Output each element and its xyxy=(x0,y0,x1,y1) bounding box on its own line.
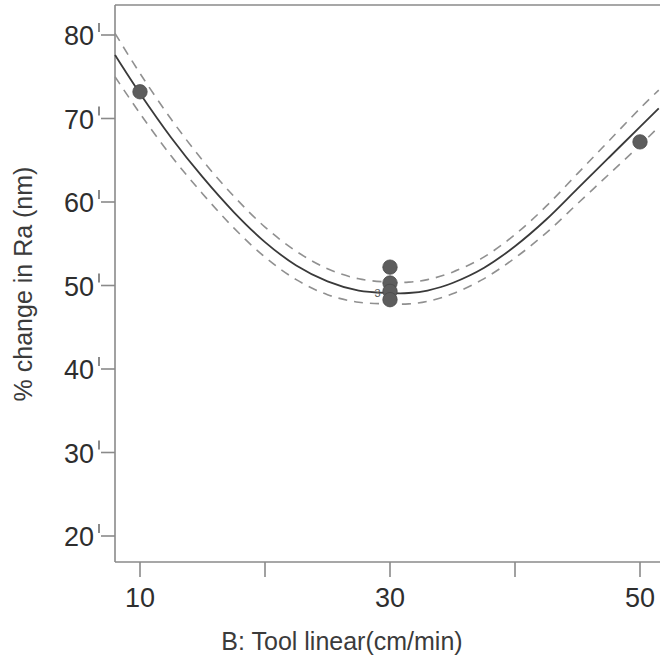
y-tick-label: 70 xyxy=(64,105,94,135)
chart-container: 20304050607080 103050 3 B: Tool linear(c… xyxy=(0,0,660,661)
y-axis-ticks: 20304050607080 xyxy=(64,21,115,552)
x-tick-label: 30 xyxy=(375,583,405,613)
data-point xyxy=(633,135,647,149)
scatter-fit-plot: 20304050607080 103050 3 B: Tool linear(c… xyxy=(0,0,660,661)
x-axis-title: B: Tool linear(cm/min) xyxy=(221,627,462,655)
y-tick-label: 30 xyxy=(64,439,94,469)
data-point xyxy=(383,260,397,274)
x-tick-label: 50 xyxy=(625,583,655,613)
x-tick-label: 10 xyxy=(125,583,155,613)
y-tick-label: 20 xyxy=(64,522,94,552)
y-tick-label: 80 xyxy=(64,21,94,51)
data-point xyxy=(133,85,147,99)
x-axis-ticks: 103050 xyxy=(125,562,655,613)
confidence-band-line xyxy=(115,33,659,282)
y-tick-label: 60 xyxy=(64,188,94,218)
overlap-count-label: 3 xyxy=(374,287,380,299)
data-point xyxy=(383,292,397,306)
annotation-group: 3 xyxy=(374,287,380,299)
y-tick-label: 40 xyxy=(64,355,94,385)
y-tick-label: 50 xyxy=(64,272,94,302)
y-axis-title: % change in Ra (nm) xyxy=(9,167,37,402)
